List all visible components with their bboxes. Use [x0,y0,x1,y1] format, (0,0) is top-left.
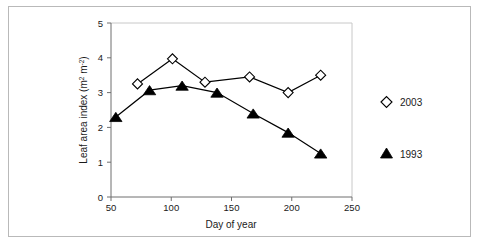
data-point-filled-triangle[interactable] [247,109,259,118]
y-tick-label-1: 1 [98,157,103,168]
filled-triangle-icon [381,148,393,158]
data-point-open-diamond[interactable] [200,77,210,87]
x-tick-label-200: 200 [284,202,300,213]
data-point-filled-triangle[interactable] [282,128,294,137]
figure-panel: 5 4 3 2 1 0 50 100 150 200 250 [8,6,471,237]
x-tick-label-50: 50 [106,202,117,213]
svg-text:Leaf area index (m2 m-2): Leaf area index (m2 m-2) [78,56,90,163]
x-axis-title: Day of year [205,219,257,230]
legend-entry-1993[interactable]: 1993 [381,148,423,160]
x-tick-label-100: 100 [163,202,179,213]
y-axis-title: Leaf area index (m2 m-2) [78,56,90,163]
series-2003 [133,54,326,98]
series-1993 [110,81,327,158]
y-tick-label-0: 0 [98,192,103,203]
legend: 2003 1993 [381,97,423,161]
series-layer [110,54,327,158]
legend-label-2003: 2003 [400,97,423,108]
y-tick-label-4: 4 [98,52,103,63]
legend-entry-2003[interactable]: 2003 [381,97,423,108]
y-tick-label-2: 2 [98,122,103,133]
y-axis: 5 4 3 2 1 0 [98,18,111,203]
legend-label-1993: 1993 [400,149,423,160]
y-tick-label-3: 3 [98,87,103,98]
line-chart-svg: 5 4 3 2 1 0 50 100 150 200 250 [9,7,472,238]
data-point-open-diamond[interactable] [316,70,326,80]
x-tick-label-150: 150 [224,202,240,213]
x-tick-label-250: 250 [344,202,360,213]
x-axis: 50 100 150 200 250 [106,197,360,213]
y-axis-title-tail: ) [78,56,89,59]
chart-area: 5 4 3 2 1 0 50 100 150 200 250 [9,7,472,238]
y-axis-title-mid: m [78,66,89,77]
data-point-filled-triangle[interactable] [211,88,223,97]
y-axis-title-main: Leaf area index (m [78,80,89,163]
plot-frame [111,23,352,197]
y-tick-label-5: 5 [98,18,103,29]
open-diamond-icon [381,97,392,108]
data-point-open-diamond[interactable] [245,72,255,82]
data-point-open-diamond[interactable] [283,88,293,98]
data-point-open-diamond[interactable] [133,79,143,89]
data-point-open-diamond[interactable] [167,54,177,64]
